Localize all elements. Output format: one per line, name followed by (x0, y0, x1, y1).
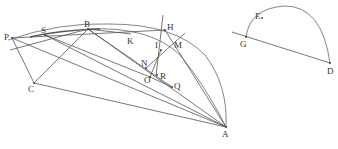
label-a: A (222, 129, 229, 139)
label-p: P (4, 32, 9, 42)
label-d: D (327, 66, 334, 76)
label-k: K (127, 36, 134, 46)
label-o: O (144, 75, 151, 85)
label-h: H (167, 22, 174, 32)
label-i: I (155, 40, 158, 50)
label-r: R (160, 71, 166, 81)
label-g: G (240, 39, 247, 49)
label-s: S (41, 25, 46, 35)
label-b: B (84, 19, 90, 29)
label-n: N (141, 58, 148, 68)
label-m: M (174, 40, 182, 50)
geometry-diagram: P S B K H I M N O R Q C A G E D (0, 0, 338, 149)
line-ca (34, 83, 226, 127)
line-tangent-s (10, 29, 88, 50)
label-e: E (255, 11, 261, 21)
line-m-n (146, 33, 185, 68)
line-cb (34, 29, 88, 83)
label-q: Q (174, 81, 181, 91)
label-c: C (28, 84, 34, 94)
